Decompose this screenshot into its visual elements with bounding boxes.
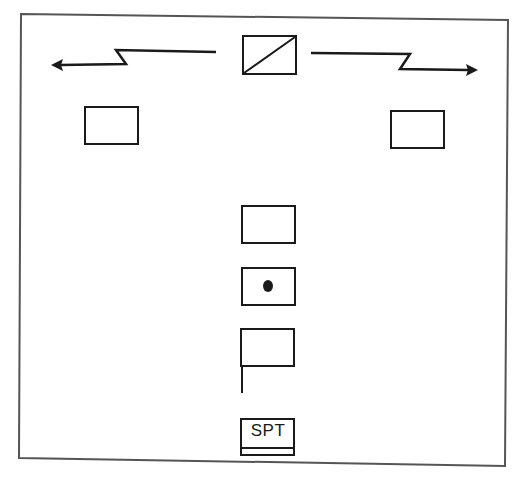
outer-frame	[19, 14, 508, 466]
center-box-empty	[242, 206, 295, 243]
center-box-dot	[242, 268, 295, 305]
center-symbol-diagonal	[243, 36, 296, 74]
diagram-canvas	[0, 0, 523, 487]
left-unit-box	[85, 107, 138, 144]
dot-icon	[263, 280, 273, 292]
left-boundary-arrow	[51, 50, 216, 71]
spt-label: SPT	[241, 421, 295, 441]
right-unit-box	[391, 111, 444, 148]
right-boundary-arrow	[311, 53, 478, 76]
center-box-staff	[241, 329, 294, 393]
